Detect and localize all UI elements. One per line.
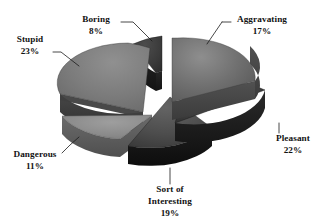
label-pleasant-name: Pleasant (276, 133, 311, 143)
label-aggravating-percent: 17% (253, 26, 272, 36)
slice-boring-side2 (156, 71, 162, 91)
label-stupid-name: Stupid (17, 34, 44, 44)
label-soi-percent: 19% (161, 208, 180, 218)
pie-chart-figure: Boring 8% Aggravating 17% Stupid 23% Dan… (0, 0, 327, 224)
label-boring-name: Boring (82, 14, 110, 24)
label-aggravating-name: Aggravating (237, 14, 287, 24)
label-pleasant-percent: 22% (284, 145, 303, 155)
label-soi-line2: Interesting (148, 196, 192, 206)
label-dangerous-percent: 11% (26, 161, 44, 171)
label-soi-line1: Sort of (156, 184, 184, 194)
label-dangerous-name: Dangerous (13, 149, 56, 159)
label-boring-percent: 8% (89, 26, 103, 36)
label-stupid-percent: 23% (21, 46, 40, 56)
pie-chart-svg: Boring 8% Aggravating 17% Stupid 23% Dan… (0, 0, 327, 224)
